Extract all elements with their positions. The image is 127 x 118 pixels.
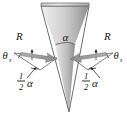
ray-label-right: R: [103, 30, 111, 42]
half-angle-label-right: 1 2 α: [82, 71, 98, 92]
cone-lower-section: [55, 44, 75, 112]
cone-incidence-diagram: α R R θ s θ s 1 2 α 1 2 α: [0, 0, 127, 118]
half-angle-denominator-right: 2: [84, 82, 89, 92]
incidence-angle-sub-right: s: [120, 57, 123, 63]
half-angle-numerator-left: 1: [19, 71, 23, 81]
figure-container: α R R θ s θ s 1 2 α 1 2 α: [0, 0, 127, 118]
incidence-angle-label-right: θ: [114, 50, 119, 61]
apex-angle-label: α: [63, 31, 69, 43]
half-angle-numerator-right: 1: [84, 71, 88, 81]
cone-top-face: [41, 3, 89, 6]
half-angle-symbol-left: α: [27, 77, 33, 89]
incidence-angle-label-left: θ: [3, 50, 8, 61]
left-normal-tick-head: [30, 49, 33, 52]
right-normal-tick-head: [94, 49, 97, 52]
half-angle-denominator-left: 2: [19, 82, 24, 92]
ray-label-left: R: [15, 30, 23, 42]
half-angle-symbol-right: α: [92, 77, 98, 89]
incidence-angle-sub-left: s: [9, 57, 12, 63]
